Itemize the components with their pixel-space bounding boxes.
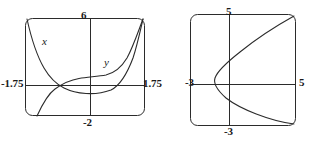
left-xmin-label: -1.75	[1, 78, 23, 89]
left-graph-panel: 6 -1.75 1.75 -2 x y	[0, 0, 160, 142]
right-xmin-label: -3	[185, 77, 194, 88]
right-ymax-label: 5	[226, 6, 231, 17]
left-graph-plot	[0, 0, 160, 142]
right-ymin-label: -3	[224, 126, 233, 137]
right-graph-plot	[160, 0, 310, 142]
left-ymin-label: -2	[83, 117, 92, 128]
curve-label-y: y	[104, 57, 109, 68]
figure-container: 6 -1.75 1.75 -2 x y 5 -3 5 -3	[0, 0, 310, 142]
right-xmax-label: 5	[299, 77, 304, 88]
left-ymax-label: 6	[81, 10, 86, 21]
curve-label-x: x	[42, 36, 47, 47]
right-graph-panel: 5 -3 5 -3	[160, 0, 310, 142]
